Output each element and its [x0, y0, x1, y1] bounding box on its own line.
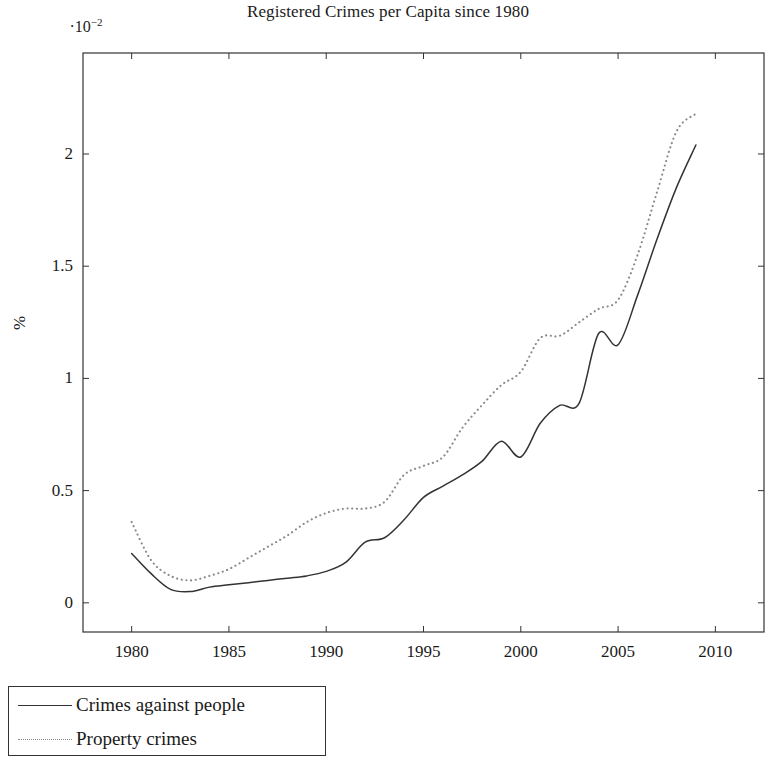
y-tick-label: 0 — [21, 593, 73, 613]
y-tick-label: 0.5 — [21, 481, 73, 501]
series-line-crimes-against-people — [132, 145, 696, 592]
legend-item-property-crimes: Property crimes — [9, 721, 325, 756]
chart-figure: Registered Crimes per Capita since 1980 … — [0, 0, 776, 767]
legend-item-crimes-against-people: Crimes against people — [9, 687, 325, 722]
y-tick-label: 2 — [21, 144, 73, 164]
x-tick-label: 1995 — [389, 642, 459, 662]
legend-swatch-dotted-line — [18, 733, 72, 745]
x-tick-label: 2010 — [680, 642, 750, 662]
legend-label-property-crimes: Property crimes — [72, 728, 197, 750]
x-tick-label: 2005 — [583, 642, 653, 662]
x-tick-label: 1985 — [194, 642, 264, 662]
legend-swatch-solid-line — [18, 699, 72, 711]
axis-ticks — [83, 53, 764, 632]
x-tick-label: 1980 — [97, 642, 167, 662]
y-tick-label: 1 — [21, 368, 73, 388]
legend-label-crimes-against-people: Crimes against people — [72, 694, 245, 716]
x-tick-label: 1990 — [291, 642, 361, 662]
chart-legend: Crimes against people Property crimes — [8, 686, 326, 756]
series-line-property-crimes — [132, 114, 696, 581]
x-tick-label: 2000 — [486, 642, 556, 662]
y-tick-label: 1.5 — [21, 256, 73, 276]
plot-frame — [83, 53, 764, 632]
